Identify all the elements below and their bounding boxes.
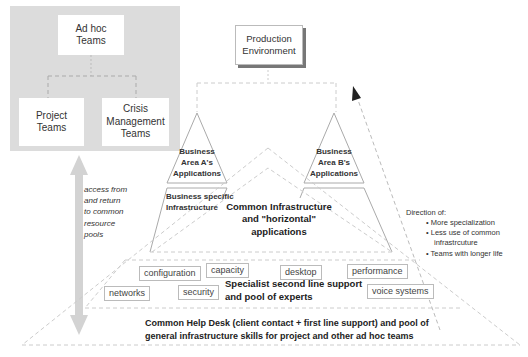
direction-item: Teams with longer life bbox=[426, 249, 503, 259]
production-environment-box: Production Environment bbox=[235, 25, 303, 65]
direction-item: More specialization bbox=[426, 218, 503, 228]
label-line: general infrastructure skills for projec… bbox=[145, 330, 429, 343]
label-line: Area B's bbox=[309, 158, 359, 169]
common-infrastructure-label: Common Infrastructure and "horizontal" a… bbox=[220, 201, 338, 238]
direction-arrowhead-icon bbox=[352, 86, 361, 101]
specialist-support-label: Specialist second line support and pool … bbox=[225, 278, 362, 304]
access-note-line: and return bbox=[84, 195, 127, 206]
label-line: Business bbox=[309, 147, 359, 158]
project-teams-box: Project Teams bbox=[19, 98, 84, 146]
label-line: and pool of experts bbox=[225, 291, 362, 304]
voice-systems-box: voice systems bbox=[367, 284, 434, 299]
label-line: Area A's bbox=[172, 158, 222, 169]
direction-title: Direction of: bbox=[406, 208, 503, 218]
help-desk-label: Common Help Desk (client contact + first… bbox=[145, 317, 429, 342]
label-line: Business bbox=[172, 147, 222, 158]
access-note-line: access from bbox=[84, 184, 127, 195]
direction-item: Less use of common bbox=[426, 228, 503, 238]
label-line: Specialist second line support bbox=[225, 278, 362, 291]
crisis-management-label: Crisis Management Teams bbox=[106, 103, 164, 141]
access-note: access from and return to common resourc… bbox=[84, 184, 127, 240]
label-line: Common Help Desk (client contact + first… bbox=[145, 317, 429, 330]
direction-item-continued: infrastrcuture bbox=[426, 238, 503, 248]
adhoc-teams-box: Ad hoc Teams bbox=[58, 15, 124, 55]
label-line: Applications bbox=[309, 169, 359, 180]
access-note-line: to common bbox=[84, 206, 127, 217]
crisis-management-teams-box: Crisis Management Teams bbox=[102, 98, 169, 146]
label-line: Applications bbox=[172, 169, 222, 180]
performance-box: performance bbox=[347, 264, 408, 279]
production-environment-label: Production Environment bbox=[242, 33, 295, 57]
label-line: and "horizontal" bbox=[220, 213, 338, 225]
security-box: security bbox=[178, 285, 219, 300]
direction-legend: Direction of: More specialization Less u… bbox=[406, 208, 503, 259]
adhoc-teams-label: Ad hoc Teams bbox=[75, 23, 106, 48]
capacity-box: capacity bbox=[206, 263, 249, 278]
label-line: Common Infrastructure bbox=[220, 201, 338, 213]
business-area-a-label: Business Area A's Applications bbox=[172, 147, 222, 179]
access-note-line: pools bbox=[84, 229, 127, 240]
networks-box: networks bbox=[104, 286, 150, 301]
business-area-b-label: Business Area B's Applications bbox=[309, 147, 359, 179]
access-note-line: resource bbox=[84, 218, 127, 229]
configuration-box: configuration bbox=[139, 266, 201, 281]
project-teams-label: Project Teams bbox=[36, 110, 67, 135]
label-line: applications bbox=[220, 226, 338, 238]
